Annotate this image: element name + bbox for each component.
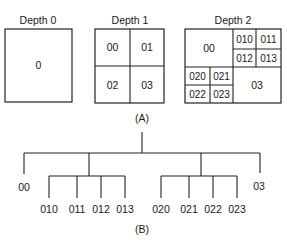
cell-0: 0: [36, 59, 42, 71]
cell-010: 010: [236, 34, 253, 45]
cell-022: 022: [189, 89, 206, 100]
depth0-title: Depth 0: [20, 14, 57, 26]
node-011: 011: [69, 203, 86, 215]
depth2-panel: 00 010 011 012 013 020 021 022 023 03: [185, 29, 281, 103]
depth1-panel: 00 01 02 03: [95, 29, 164, 103]
cell-01: 01: [141, 41, 153, 53]
cell-020: 020: [189, 71, 206, 82]
node-013: 013: [116, 203, 134, 215]
node-00: 00: [18, 181, 30, 193]
cell-023: 023: [213, 89, 230, 100]
node-023: 023: [228, 203, 246, 215]
depth2-title: Depth 2: [215, 14, 252, 26]
node-022: 022: [204, 203, 222, 215]
caption-a: (A): [135, 112, 149, 124]
cell-03: 03: [251, 79, 263, 91]
cell-011: 011: [261, 34, 277, 45]
cell-012: 012: [236, 53, 253, 64]
node-021: 021: [180, 203, 198, 215]
quadtree-diagram: Depth 0 Depth 1 Depth 2 0 00 01 02 03 00…: [0, 0, 287, 245]
cell-013: 013: [260, 53, 277, 64]
quadtree-tree: 00 03 010 011 012 013 020 021 022 023: [18, 132, 265, 215]
cell-00: 00: [203, 42, 215, 54]
node-012: 012: [92, 203, 110, 215]
cell-03: 03: [141, 79, 153, 91]
depth0-panel: 0: [5, 29, 72, 102]
node-03: 03: [253, 180, 265, 192]
cell-00: 00: [107, 41, 119, 53]
node-010: 010: [40, 203, 58, 215]
node-020: 020: [152, 203, 170, 215]
depth1-title: Depth 1: [112, 14, 149, 26]
cell-021: 021: [213, 71, 230, 82]
caption-b: (B): [135, 223, 149, 235]
cell-02: 02: [107, 79, 119, 91]
